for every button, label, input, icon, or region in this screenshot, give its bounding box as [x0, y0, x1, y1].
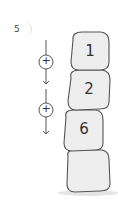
- plus-symbol-2: +: [40, 103, 52, 114]
- stone-4: [67, 150, 110, 192]
- stone-1-label: 1: [80, 44, 100, 59]
- diagram-canvas: [0, 0, 118, 205]
- plus-symbol-1: +: [40, 55, 52, 66]
- stone-3-label: 6: [74, 122, 94, 137]
- stone-2-label: 2: [79, 82, 99, 97]
